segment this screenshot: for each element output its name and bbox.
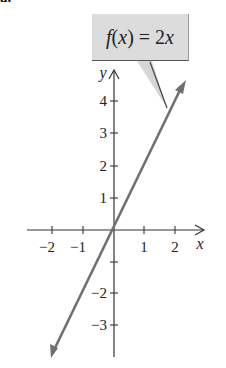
function-callout: f(x) = 2x [92, 14, 189, 61]
function-argument: x [118, 26, 127, 48]
y-axis-label: y [97, 64, 107, 82]
x-tick-label: 2 [171, 239, 179, 255]
function-name: f [106, 26, 112, 48]
line-arrow-up-icon [175, 80, 186, 94]
y-tick-label: 4 [100, 93, 108, 109]
x-axis-label: x [195, 235, 203, 252]
y-tick-label: −3 [91, 317, 107, 333]
y-tick-label: 2 [100, 158, 108, 174]
y-tick-label: 1 [100, 190, 108, 206]
function-line [53, 88, 181, 352]
function-graph: a. −2 −1 1 2 [0, 0, 226, 368]
x-tick-label: −2 [39, 239, 55, 255]
x-tick-label: −1 [70, 239, 86, 255]
y-tick-label: −2 [91, 285, 107, 301]
y-tick-label: 3 [100, 125, 108, 141]
x-tick-label: 1 [140, 239, 148, 255]
callout-label: f(x) = 2x [92, 14, 188, 60]
